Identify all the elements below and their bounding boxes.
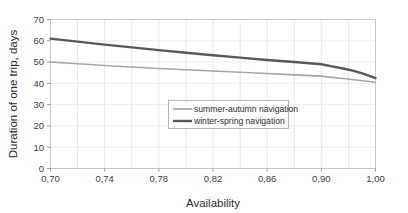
y-tick-label: 40 — [33, 78, 44, 89]
y-tick-label: 70 — [33, 14, 44, 25]
chart-legend: summer-autumn navigation winter-spring n… — [169, 101, 299, 129]
x-tick-label: 0,74 — [95, 173, 114, 184]
x-tick-label: 0,86 — [258, 173, 277, 184]
x-tick-label: 0,70 — [41, 173, 60, 184]
legend-label-summer-autumn: summer-autumn navigation — [194, 104, 298, 114]
y-tick-label: 0 — [39, 163, 44, 174]
line-chart: 0,700,740,780,820,860,901,00 01020304050… — [0, 0, 408, 213]
y-tick-label: 60 — [33, 35, 44, 46]
chart-figure: 0,700,740,780,820,860,901,00 01020304050… — [0, 0, 408, 213]
y-tick-label: 50 — [33, 56, 44, 67]
x-tick-label: 0,90 — [312, 173, 331, 184]
y-tick-label: 10 — [33, 142, 44, 153]
x-tick-label: 0,78 — [150, 173, 169, 184]
x-tick-label: 1,00 — [366, 173, 385, 184]
y-tick-label: 30 — [33, 99, 44, 110]
legend-label-winter-spring: winter-spring navigation — [193, 116, 285, 126]
y-axis-title: Duration of one trip, days — [7, 30, 19, 159]
y-tick-label: 20 — [33, 120, 44, 131]
x-axis-title: Availability — [186, 197, 240, 209]
x-tick-label: 0,82 — [204, 173, 223, 184]
